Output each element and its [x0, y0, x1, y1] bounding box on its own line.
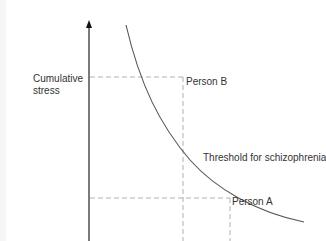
threshold-label: Threshold for schizophrenia: [203, 152, 326, 164]
threshold-curve: [126, 25, 304, 222]
y-axis-arrow-icon: [86, 20, 92, 28]
person-b-label: Person B: [186, 76, 227, 88]
y-axis-label: Cumulative stress: [33, 73, 85, 97]
person-a-label: Person A: [232, 196, 273, 208]
